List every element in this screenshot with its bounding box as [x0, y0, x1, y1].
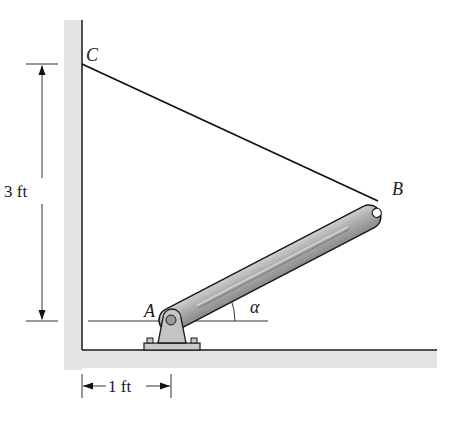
floor — [64, 350, 437, 368]
rod-ab — [155, 200, 387, 336]
dimension-vertical — [26, 64, 58, 321]
dimension-label-horizontal: 1 ft — [108, 378, 131, 395]
point-label-a: A — [144, 302, 155, 320]
diagram-canvas — [0, 0, 458, 423]
point-label-c: C — [86, 46, 98, 64]
angle-label-alpha: α — [250, 298, 259, 316]
point-label-b: B — [392, 180, 403, 198]
cable-cb — [82, 64, 378, 201]
wall — [64, 20, 82, 370]
dimension-label-vertical: 3 ft — [4, 183, 27, 200]
